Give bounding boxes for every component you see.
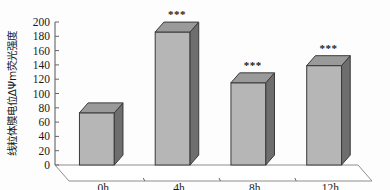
bar-side-face: [266, 73, 275, 165]
bar-side-face: [114, 103, 123, 165]
y-axis-tick-label: 60: [39, 116, 51, 128]
plot-floor: [55, 165, 372, 181]
x-axis-label-12h: 12h: [322, 182, 340, 190]
y-axis-tick-label: 120: [33, 73, 51, 85]
y-axis-tick-label: 180: [33, 30, 51, 42]
bar-8h: [231, 73, 275, 165]
significance-marker-8h: ***: [244, 59, 262, 71]
bar-side-face: [342, 56, 351, 165]
significance-marker-4h: ***: [168, 8, 186, 20]
x-axis-label-8h: 8h: [249, 182, 261, 190]
bar-front-face: [155, 32, 190, 165]
y-axis-tick-label: 40: [39, 130, 51, 142]
significance-marker-12h: ***: [320, 42, 338, 54]
y-axis-tick-label: 80: [39, 102, 51, 114]
bar-4h: [155, 22, 199, 165]
y-axis-tick-label: 200: [33, 16, 51, 28]
bar-0h: [79, 103, 123, 165]
x-axis-label-0h: 0h: [97, 182, 109, 190]
y-axis-tick-label: 20: [39, 145, 51, 157]
y-axis-tick-label: 140: [33, 59, 51, 71]
bar-front-face: [231, 83, 266, 165]
y-axis-title: 线粒体膜电位ΔΨm荧光强度: [6, 30, 18, 157]
bar-front-face: [79, 113, 114, 165]
x-axis-label-4h: 4h: [173, 182, 185, 190]
y-axis-tick-label: 0: [44, 159, 50, 171]
bar-12h: [307, 56, 351, 165]
bar-side-face: [190, 22, 199, 165]
bar-chart-3d: 020406080100120140160180200线粒体膜电位ΔΨm荧光强度…: [0, 0, 390, 190]
y-axis-tick-label: 100: [33, 88, 51, 100]
chart-container: 020406080100120140160180200线粒体膜电位ΔΨm荧光强度…: [0, 0, 390, 190]
bar-front-face: [307, 66, 342, 165]
y-axis-tick-label: 160: [33, 45, 51, 57]
